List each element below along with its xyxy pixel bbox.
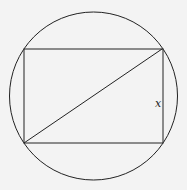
diagonal — [24, 49, 162, 143]
inscribed-rectangle-diagram: x — [0, 0, 187, 190]
side-label-x: x — [155, 97, 162, 110]
